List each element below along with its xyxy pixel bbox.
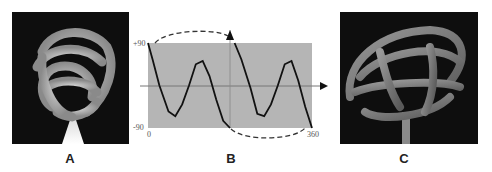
wrap-arc-top [155,31,228,43]
caption-c: C [389,151,419,166]
x-tick-max: 360 [307,130,319,139]
caption-b: B [216,151,246,166]
y-tick-min: -90 [133,123,144,132]
x-tick-min: 0 [147,130,151,139]
x-axis-arrow-icon [320,82,328,90]
sculpture-image-c [340,12,478,144]
wrap-arc-bottom [231,128,305,138]
caption-a: A [55,151,85,166]
y-tick-max: +90 [133,39,146,48]
